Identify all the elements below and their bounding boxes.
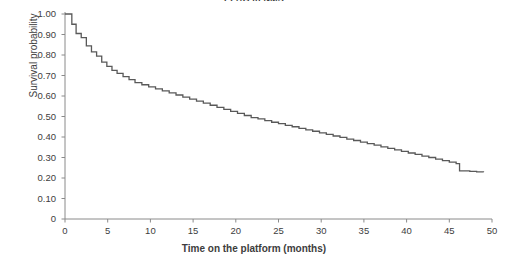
plot-area (0, 0, 508, 263)
survival-curve (65, 14, 483, 172)
chart-figure: EPAG in NMS Survival probability Time on… (0, 0, 508, 263)
